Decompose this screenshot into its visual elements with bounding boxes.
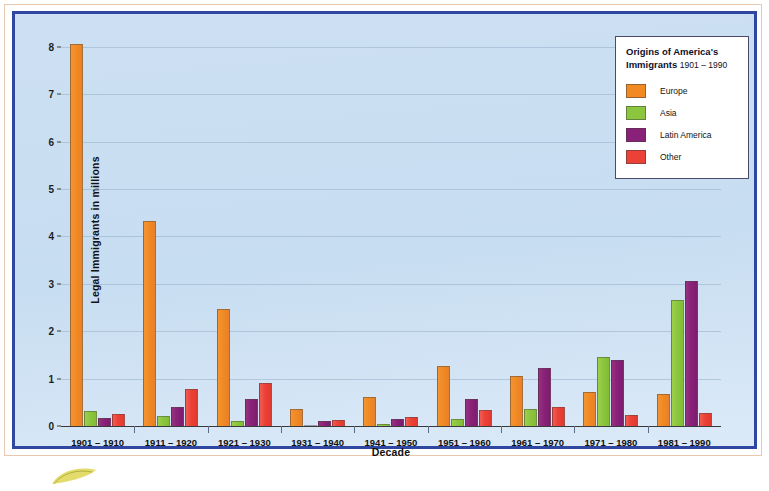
bar-europe [583, 392, 596, 426]
bar-asia [671, 300, 684, 426]
x-tick-mark [134, 426, 135, 433]
x-tick-mark [648, 426, 649, 433]
bar-asia [377, 424, 390, 426]
bar-europe [437, 366, 450, 426]
bar-asia [304, 425, 317, 427]
bar-other [112, 414, 125, 426]
bar-latin [98, 418, 111, 426]
bar-group: 1921 – 1930 [208, 42, 281, 426]
x-tick-label: 1911 – 1920 [145, 437, 197, 448]
bar-latin [171, 407, 184, 426]
bar-latin [685, 281, 698, 426]
legend-swatch-europe [626, 84, 646, 98]
bar-latin [465, 399, 478, 426]
legend-row: Europe [626, 80, 739, 102]
legend-title: Origins of America's Immigrants 1901 – 1… [626, 46, 739, 71]
bar-asia [597, 357, 610, 426]
bar-other [552, 407, 565, 426]
legend-title-line1: Origins of America's [626, 46, 718, 57]
bar-other [332, 420, 345, 426]
bar-latin [611, 360, 624, 426]
x-tick-mark [574, 426, 575, 433]
bar-asia [157, 416, 170, 426]
bar-europe [143, 221, 156, 426]
bar-group: 1931 – 1940 [281, 42, 354, 426]
axis-baseline [61, 426, 721, 427]
legend-label: Latin America [660, 130, 712, 140]
legend-label: Other [660, 152, 681, 162]
x-tick-mark [428, 426, 429, 433]
chart-frame: Legal Immigrants in millions Decade 0123… [12, 11, 757, 449]
x-tick-mark [501, 426, 502, 433]
page-corner-artifact [50, 464, 106, 486]
bar-group: 1901 – 1910 [61, 42, 134, 426]
bar-europe [510, 376, 523, 426]
legend-row: Asia [626, 102, 739, 124]
bar-europe [217, 309, 230, 426]
bar-other [479, 410, 492, 426]
legend-swatch-asia [626, 106, 646, 120]
page-canvas: Legal Immigrants in millions Decade 0123… [0, 0, 769, 491]
x-tick-label: 1961 – 1970 [511, 437, 564, 448]
y-tick-label: 6 [48, 136, 54, 147]
x-tick-label: 1941 – 1950 [365, 437, 418, 448]
legend-swatch-other [626, 150, 646, 164]
y-tick-label: 3 [48, 278, 54, 289]
x-tick-mark [354, 426, 355, 433]
y-tick-label: 5 [48, 184, 54, 195]
bar-group: 1961 – 1970 [501, 42, 574, 426]
bar-latin [245, 399, 258, 426]
scan-artifact-icon [50, 464, 106, 486]
x-tick-label: 1951 – 1960 [438, 437, 491, 448]
x-tick-mark [208, 426, 209, 433]
bar-europe [363, 397, 376, 426]
bar-group: 1911 – 1920 [134, 42, 207, 426]
bar-latin [391, 419, 404, 426]
bar-other [699, 413, 712, 426]
y-tick-label: 0 [48, 421, 54, 432]
bar-asia [84, 411, 97, 426]
bar-group: 1941 – 1950 [354, 42, 427, 426]
legend-title-line2: Immigrants [626, 59, 677, 70]
x-tick-mark [281, 426, 282, 433]
legend-swatch-latin [626, 128, 646, 142]
x-tick-label: 1971 – 1980 [585, 437, 638, 448]
bar-europe [657, 394, 670, 426]
legend-label: Europe [660, 86, 687, 96]
legend-row: Latin America [626, 124, 739, 146]
x-tick-label: 1921 – 1930 [218, 437, 271, 448]
bar-group: 1951 – 1960 [428, 42, 501, 426]
x-tick-label: 1931 – 1940 [291, 437, 344, 448]
chart-legend: Origins of America's Immigrants 1901 – 1… [615, 36, 749, 179]
bar-asia [524, 409, 537, 426]
bar-latin [318, 421, 331, 426]
x-tick-label: 1981 – 1990 [658, 437, 711, 448]
legend-title-years: 1901 – 1990 [680, 60, 727, 70]
y-tick-label: 4 [48, 231, 54, 242]
y-tick-label: 7 [48, 89, 54, 100]
bar-asia [451, 419, 464, 426]
y-tick-label: 8 [48, 41, 54, 52]
bar-europe [290, 409, 303, 426]
bar-other [259, 383, 272, 426]
bar-latin [538, 368, 551, 426]
bar-europe [70, 44, 83, 426]
legend-row: Other [626, 146, 739, 168]
bar-other [625, 415, 638, 426]
legend-entries: EuropeAsiaLatin AmericaOther [626, 80, 739, 168]
bar-asia [231, 421, 244, 426]
legend-label: Asia [660, 108, 677, 118]
y-tick-label: 1 [48, 373, 54, 384]
x-tick-label: 1901 – 1910 [71, 437, 124, 448]
bar-other [185, 389, 198, 426]
y-tick-label: 2 [48, 326, 54, 337]
bar-other [405, 417, 418, 426]
